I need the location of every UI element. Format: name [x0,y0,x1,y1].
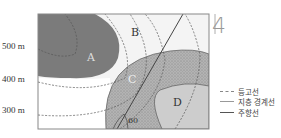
elevation-label-300: 300 m [2,105,25,115]
legend-item-contour: 등고선 [220,86,275,97]
stratum-d-label: D [173,96,182,109]
stratum-c-label: C [128,73,136,86]
legend-label: 지층 경계선 [238,96,275,107]
stratum-a-area [38,14,119,78]
legend: 등고선 지층 경계선 주향선 [220,86,275,118]
dashed-line-icon [220,91,234,92]
geologic-map-figure: 500 m 400 m 300 m A B C D 60 4 등고선 지층 경계… [0,0,281,138]
legend-label: 등고선 [238,86,259,97]
stratum-a-label: A [87,51,95,64]
elevation-label-500: 500 m [2,41,25,51]
thin-line-icon [220,101,234,102]
legend-label: 주향선 [238,107,259,118]
legend-item-boundary: 지층 경계선 [220,97,275,108]
thick-line-icon [220,112,234,113]
dip-angle-label: 60 [128,116,138,125]
legend-item-strike: 주향선 [220,107,275,118]
stratum-b-label: B [131,26,139,39]
elevation-label-400: 400 m [2,74,25,84]
question-number: 4 [212,13,226,38]
